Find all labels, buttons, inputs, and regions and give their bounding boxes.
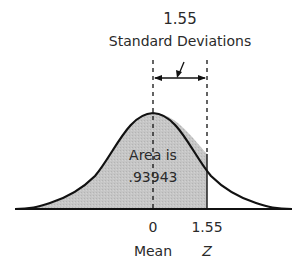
z-value-label: 1.55 (191, 219, 222, 235)
normal-distribution-diagram: 1.55 Standard Deviations Area is .93943 … (0, 0, 303, 273)
double-arrow-icon (154, 75, 206, 81)
shaded-area (28, 113, 207, 209)
mean-axis-label: Mean (134, 243, 172, 259)
sd-unit-label: Standard Deviations (109, 33, 251, 49)
sd-value-label: 1.55 (163, 10, 196, 28)
pointer-arrow-icon (176, 62, 184, 78)
z-axis-label: Z (201, 243, 212, 259)
area-label-line2: .93943 (129, 169, 178, 185)
area-label-line1: Area is (129, 147, 177, 163)
mean-value-label: 0 (149, 219, 158, 235)
